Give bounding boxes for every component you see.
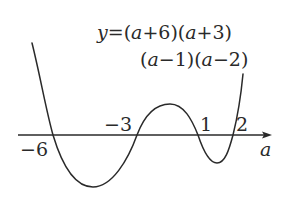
eq-a: a: [185, 21, 196, 43]
root-label-neg3: −3: [104, 113, 132, 135]
root-label-1: 1: [200, 113, 212, 135]
eq-part: −1)(: [159, 48, 202, 70]
root-label-2: 2: [236, 113, 248, 135]
eq-part: −2): [213, 48, 248, 70]
eq-a: a: [147, 48, 158, 70]
eq-part: +6)(: [142, 21, 185, 43]
root-label-neg6: −6: [20, 138, 48, 160]
graph-diagram: y=(a+6)(a+3) (a−1)(a−2) −6 −3 1 2 a: [0, 0, 285, 202]
equation-line-1: y=(a+6)(a+3): [96, 21, 232, 43]
eq-part: (: [140, 48, 147, 70]
axis-label-a: a: [260, 138, 271, 160]
equation-line-2: (a−1)(a−2): [140, 48, 248, 70]
eq-y: y: [96, 21, 108, 43]
eq-part: +3): [197, 21, 232, 43]
eq-a: a: [202, 48, 213, 70]
eq-a: a: [131, 21, 142, 43]
eq-part: =(: [108, 21, 131, 43]
